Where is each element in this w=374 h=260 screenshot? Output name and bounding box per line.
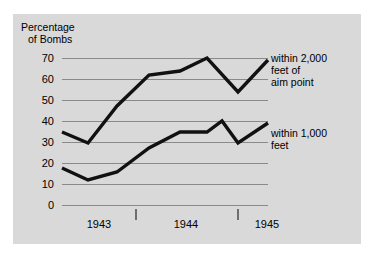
y-tick-label-0: 0 [30, 200, 54, 211]
series-label-within-2000-feet-line-3: aim point [271, 76, 327, 88]
y-tick-label-60: 60 [30, 74, 54, 85]
y-axis-title-line-1: Percentage [21, 21, 75, 33]
series-label-within-1000-feet: within 1,000 feet [271, 127, 327, 151]
series-label-within-2000-feet: within 2,000 feet of aim point [271, 52, 327, 88]
x-tick-label-1943: 1943 [74, 219, 124, 230]
x-tick-label-1944: 1944 [161, 219, 211, 230]
y-tick-label-30: 30 [30, 137, 54, 148]
series-line-within-1000-feet [62, 121, 268, 180]
series-label-within-2000-feet-line-2: feet of [271, 64, 327, 76]
y-tick-label-50: 50 [30, 95, 54, 106]
chart-figure: Percentage of Bombs 70 60 50 40 30 20 10… [0, 0, 374, 260]
y-tick-label-20: 20 [30, 158, 54, 169]
series-label-within-2000-feet-line-1: within 2,000 [271, 52, 327, 64]
y-tick-label-70: 70 [30, 53, 54, 64]
y-axis-title-line-2: of Bombs [28, 33, 72, 45]
series-label-within-1000-feet-line-2: feet [271, 139, 327, 151]
gridlines [62, 59, 268, 206]
y-tick-label-40: 40 [30, 116, 54, 127]
y-tick-label-10: 10 [30, 179, 54, 190]
series-label-within-1000-feet-line-1: within 1,000 [271, 127, 327, 139]
x-tick-label-1945: 1945 [242, 219, 292, 230]
